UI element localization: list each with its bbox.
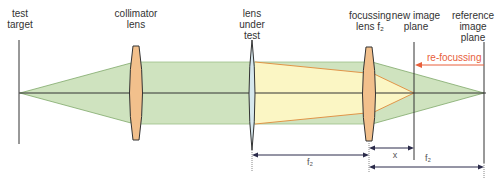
label-dimension-x: x xyxy=(385,150,405,160)
label-lens-under-test: lens under test xyxy=(228,8,276,41)
label-refocussing: re-focussing xyxy=(427,52,481,63)
label-dimension-f2-left: f₂ xyxy=(300,157,320,167)
dimension-f2-right xyxy=(369,165,484,170)
label-test-target: test target xyxy=(2,8,38,30)
collimator-lens xyxy=(130,46,143,140)
label-new-image-plane: new image plane xyxy=(386,10,446,32)
label-collimator-lens: collimator lens xyxy=(106,8,166,30)
lens-under-test xyxy=(249,40,255,150)
label-reference-image-plane: reference image plane xyxy=(448,10,498,43)
focussing-lens xyxy=(363,47,376,141)
label-dimension-f2-right: f₂ xyxy=(418,153,438,163)
